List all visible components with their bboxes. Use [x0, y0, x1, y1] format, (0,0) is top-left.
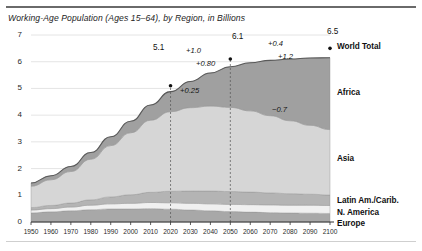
region-label-n-america: N. America: [337, 208, 379, 217]
y-tick-5: 5: [8, 83, 22, 92]
annotation-africa-2050-2100: +1.2: [278, 52, 293, 61]
y-tick-1: 1: [8, 190, 22, 199]
y-tick-4: 4: [8, 110, 22, 119]
y-tick-6: 6: [8, 57, 22, 66]
region-label-latin-am-carib: Latin Am./Carib.: [337, 196, 399, 205]
annotation-africa-2020-2050: +0.80: [196, 59, 215, 68]
region-label-europe: Europe: [337, 219, 365, 228]
y-tick-7: 7: [8, 30, 22, 39]
region-label-africa: Africa: [337, 88, 360, 97]
annotation-asia-2050-2100: −0.7: [272, 105, 287, 114]
marker-label-2020: 5.1: [153, 43, 164, 52]
annotation-asia-2020-2050: +0.25: [180, 86, 199, 95]
marker-label-2100: 6.5: [327, 27, 338, 36]
annotation-world-total-2020-2050: +1.0: [186, 46, 201, 55]
annotation-world-total-2050-2100: +0.4: [268, 39, 283, 48]
y-tick-2: 2: [8, 164, 22, 173]
x-tick-2100: 2100: [318, 228, 342, 235]
y-tick-3: 3: [8, 137, 22, 146]
figure: Working-Age Population (Ages 15–64), by …: [0, 0, 422, 251]
region-label-world-total: World Total: [337, 42, 381, 51]
region-label-asia: Asia: [337, 154, 354, 163]
y-tick-0: 0: [8, 217, 22, 226]
marker-label-2050: 6.1: [232, 32, 243, 41]
